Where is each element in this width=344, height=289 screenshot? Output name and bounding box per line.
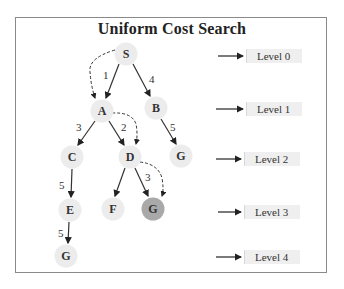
edge-D-F xyxy=(115,168,125,196)
level-label-0: Level 0 xyxy=(246,49,302,63)
node-E: E xyxy=(59,199,82,222)
cost-A-D: 2 xyxy=(121,121,127,133)
svg-text:G: G xyxy=(61,249,70,263)
cost-B-G: 5 xyxy=(170,121,176,133)
edge-E-G xyxy=(68,222,69,243)
svg-text:G: G xyxy=(176,149,185,163)
svg-text:A: A xyxy=(98,104,107,118)
level-label-1: Level 1 xyxy=(246,102,302,116)
cost-C-E: 5 xyxy=(59,179,65,191)
node-G-level4: G xyxy=(55,245,78,268)
svg-text:B: B xyxy=(152,101,160,115)
node-G-level2: G xyxy=(170,145,193,168)
level-arrows xyxy=(216,56,243,257)
cost-A-C: 3 xyxy=(76,121,82,133)
edge-C-E xyxy=(71,169,72,197)
cost-S-A: 1 xyxy=(103,69,109,81)
cost-D-G: 3 xyxy=(145,171,151,183)
search-tree: 1 4 3 2 5 5 3 5 S A B C D G xyxy=(0,0,344,289)
path-D-G xyxy=(140,162,163,196)
node-D: D xyxy=(119,146,142,169)
tree-nodes: S A B C D G E F xyxy=(55,43,193,268)
node-B: B xyxy=(145,97,168,120)
svg-text:C: C xyxy=(68,150,77,164)
node-G-goal: G xyxy=(142,198,165,221)
cost-E-G: 5 xyxy=(58,227,64,239)
node-A: A xyxy=(91,100,114,123)
svg-text:D: D xyxy=(126,150,135,164)
svg-text:F: F xyxy=(109,202,116,216)
node-F: F xyxy=(102,198,125,221)
level-label-4: Level 4 xyxy=(244,250,300,264)
cost-S-B: 4 xyxy=(149,73,155,85)
svg-text:S: S xyxy=(123,47,130,61)
level-label-3: Level 3 xyxy=(244,205,300,219)
svg-text:E: E xyxy=(66,203,74,217)
level-label-2: Level 2 xyxy=(244,152,300,166)
node-C: C xyxy=(61,146,84,169)
edge-S-B xyxy=(133,64,150,96)
svg-text:G: G xyxy=(148,202,157,216)
node-S: S xyxy=(115,43,138,66)
